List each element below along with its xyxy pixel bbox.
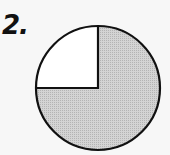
fraction-circle xyxy=(0,0,170,155)
pie-chart xyxy=(36,26,160,150)
